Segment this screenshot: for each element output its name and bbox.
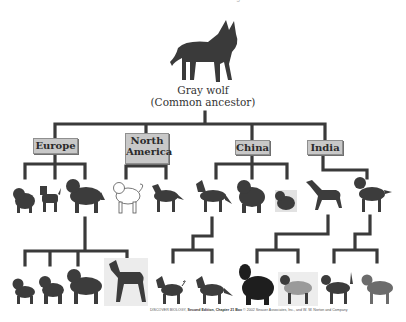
- caption-edition: Second Edition, Chapter 21 Box: [186, 308, 242, 312]
- chow-chow-dog-icon: [237, 180, 265, 213]
- saint-bernard-dog-icon: [67, 269, 102, 304]
- root-label: Gray wolf (Common ancestor): [140, 84, 266, 108]
- region-label: India: [310, 142, 339, 153]
- wild-dog-icon: [196, 276, 233, 304]
- region-europe: Europe: [33, 138, 78, 154]
- bulldog-dog-icon: [39, 276, 64, 304]
- root-name: Gray wolf: [140, 84, 266, 96]
- caption-book: DISCOVER BIOLOGY,: [150, 308, 186, 312]
- region-north-america: North America: [125, 133, 169, 164]
- region-china: China: [235, 140, 270, 155]
- spaniel-dog-icon: [278, 272, 318, 306]
- wolf-icon: [170, 20, 237, 82]
- shiba-dog-icon: [156, 276, 185, 304]
- caption-copyright: © 2002 Sinauer Associates, Inc., and W. …: [242, 308, 348, 312]
- setter-dog-icon: [362, 275, 394, 305]
- hound-dog-icon: [354, 177, 392, 212]
- region-india: India: [307, 140, 343, 155]
- afghan-dog-icon: [239, 264, 274, 305]
- beagle-dog-icon: [321, 272, 353, 304]
- figure-caption: DISCOVER BIOLOGY, Second Edition, Chapte…: [150, 308, 406, 312]
- great-dane-dog-icon: [104, 258, 148, 306]
- region-label: North: [126, 135, 168, 146]
- spitz-dog-icon: [114, 183, 143, 214]
- greyhound-dog-icon: [306, 180, 342, 210]
- root-subtitle: (Common ancestor): [140, 96, 266, 108]
- region-label-line2: America: [126, 146, 168, 157]
- dingo-dog-icon: [196, 180, 232, 212]
- pekingese-dog-icon: [275, 190, 297, 212]
- husky-dog-icon: [152, 184, 184, 212]
- region-label: Europe: [35, 140, 75, 151]
- terrier-dog-icon: [40, 186, 61, 212]
- chow-like-dog-icon: [13, 188, 35, 213]
- mastiff-dog-icon: [66, 179, 105, 213]
- dog-ancestry-diagram: Ancestors of the Dog: [0, 0, 406, 322]
- pug-dog-icon: [13, 279, 36, 305]
- region-label: China: [236, 142, 269, 153]
- phylogeny-lines: [0, 0, 406, 322]
